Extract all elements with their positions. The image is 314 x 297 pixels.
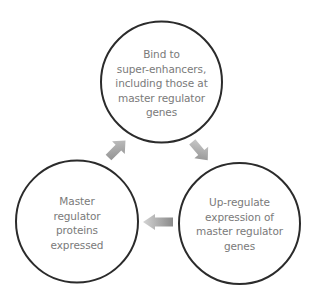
node-label-line: genes xyxy=(179,239,300,254)
node-label-line: Bind to xyxy=(101,47,222,62)
node-label-line: expression of xyxy=(179,210,300,225)
node-label-line: including those at xyxy=(101,76,222,91)
node-label-line: Master xyxy=(16,194,138,209)
node-label-line: regulator xyxy=(16,209,138,224)
node-label-line: master regulator xyxy=(101,91,222,106)
node-label-line: genes xyxy=(101,105,222,120)
node-label-line: expressed xyxy=(16,238,138,253)
node-label-expressed: Master regulator proteins expressed xyxy=(16,194,138,252)
node-label-line: Up-regulate xyxy=(179,195,300,210)
node-label-line: master regulator xyxy=(179,224,300,239)
node-label-line: super-enhancers, xyxy=(101,62,222,77)
arrow-down-right-icon xyxy=(185,136,214,166)
arrow-up-right-icon xyxy=(102,134,132,164)
arrow-left-icon xyxy=(143,214,173,230)
node-label-line: proteins xyxy=(16,223,138,238)
node-label-bind: Bind to super-enhancers, including those… xyxy=(101,47,222,120)
node-label-upregulate: Up-regulate expression of master regulat… xyxy=(179,195,300,253)
